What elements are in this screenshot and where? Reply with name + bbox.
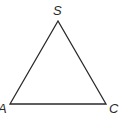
vertex-label-s: S xyxy=(53,3,62,18)
vertex-label-c: C xyxy=(109,101,119,116)
vertex-label-a: A xyxy=(0,101,7,116)
triangle-sac xyxy=(10,21,106,104)
triangle-diagram: S A C xyxy=(0,0,124,127)
